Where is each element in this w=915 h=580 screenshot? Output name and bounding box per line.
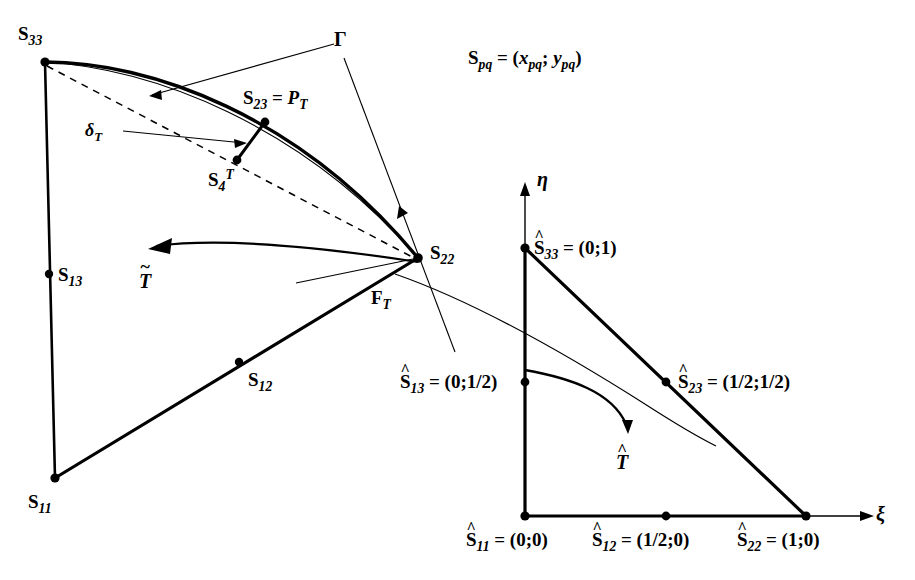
label-s13: S13 xyxy=(58,265,82,288)
label-t-tilde: ~T xyxy=(139,271,151,291)
label-t-tilde-wrap: ~T xyxy=(139,271,151,291)
label-t-hat-wrap: ^T xyxy=(616,452,628,472)
label-s13-sub: 13 xyxy=(69,274,83,289)
sweep-curve-right xyxy=(395,274,716,446)
label-gamma: Γ xyxy=(334,29,347,49)
gamma-leader-left-arrowhead xyxy=(149,90,162,100)
label-s23-sub: 23 xyxy=(254,97,268,112)
label-s33-sub: 33 xyxy=(29,33,43,48)
label-shat33-sub: 33 xyxy=(545,247,559,262)
label-gamma-text: Γ xyxy=(334,28,347,50)
label-shat13-coords: (0;1/2) xyxy=(445,371,498,392)
label-s4t: S4T xyxy=(208,168,234,194)
label-shat33-coords: (0;1) xyxy=(579,237,617,258)
hat-accent-icon: ^ xyxy=(617,441,627,458)
label-shat23-wrap: ^S xyxy=(678,372,689,391)
label-shat12-coords: (1/2;0) xyxy=(637,529,690,550)
legend-y-sub: pq xyxy=(562,57,576,72)
label-shat13-sub: 13 xyxy=(411,381,425,396)
label-shat11: ^S11 = (0;0) xyxy=(466,530,548,553)
delta-t-leader xyxy=(123,131,244,143)
label-shat11-coords: (0;0) xyxy=(510,529,548,550)
label-s11-base: S xyxy=(28,491,39,512)
label-shat11-wrap: ^S xyxy=(466,530,477,549)
label-s22-base: S xyxy=(430,242,441,263)
label-shat23-coords: (1/2;1/2) xyxy=(723,371,791,392)
hat-accent-icon: ^ xyxy=(679,362,688,378)
legend-eq: = ( xyxy=(492,47,519,68)
node-dot-shat13 xyxy=(521,378,530,387)
label-s13-base: S xyxy=(58,264,69,285)
label-axis-xi-text: ξ xyxy=(876,503,885,525)
edge-curve-approx xyxy=(45,62,418,258)
legend-s-sub: pq xyxy=(479,57,493,72)
gamma-leader-right-arrowhead xyxy=(397,206,408,219)
label-delta-t: δT xyxy=(85,121,102,144)
label-s11-sub: 11 xyxy=(39,501,52,516)
label-shat13: ^S13 = (0;1/2) xyxy=(400,372,497,395)
label-ft-base: F xyxy=(371,287,383,308)
label-pt-base: P xyxy=(288,87,300,108)
label-shat13-eq: = xyxy=(424,371,444,392)
hat-accent-icon: ^ xyxy=(738,520,747,536)
label-shat22: ^S22 = (1;0) xyxy=(737,530,820,553)
legend-note: Spq = (xpq; ypq) xyxy=(468,48,582,71)
label-s33-base: S xyxy=(18,23,29,44)
label-s23-equals-pt: S23 = PT xyxy=(243,88,308,111)
label-shat12-wrap: ^S xyxy=(592,530,603,549)
label-shat33-wrap: ^S xyxy=(534,238,545,257)
label-s11: S11 xyxy=(28,492,52,515)
legend-close: ) xyxy=(575,47,581,68)
node-dot-shat11 xyxy=(520,511,529,520)
node-dot-shat12 xyxy=(662,512,671,521)
node-dot-s33 xyxy=(40,57,49,66)
label-s23-base: S xyxy=(243,87,254,108)
label-s33: S33 xyxy=(18,24,42,47)
node-dot-shat23 xyxy=(662,378,671,387)
hat-accent-icon: ^ xyxy=(535,228,544,244)
node-dot-shat22 xyxy=(801,511,810,520)
label-pt-sub: T xyxy=(299,97,307,112)
legend-s: S xyxy=(468,47,479,68)
label-shat11-sub: 11 xyxy=(477,539,490,554)
hat-accent-icon: ^ xyxy=(593,520,602,536)
xi-axis-arrowhead xyxy=(860,511,874,521)
label-shat13-wrap: ^S xyxy=(400,372,411,391)
eta-axis-arrowhead xyxy=(520,182,530,196)
diagram-canvas xyxy=(0,0,915,580)
label-shat33: ^S33 = (0;1) xyxy=(534,238,617,261)
legend-x-sub: pq xyxy=(528,57,542,72)
t-hat-arrow-curve xyxy=(525,370,626,424)
label-s4t-sup: T xyxy=(225,167,233,182)
figure-root: S33 S11 S22 S13 S12 S23 = PT S4T Γ δT FT… xyxy=(0,0,915,580)
label-axis-eta: η xyxy=(537,169,548,189)
tilde-accent-icon: ~ xyxy=(140,258,149,276)
edge-curve-gamma xyxy=(45,62,418,258)
label-axis-eta-text: η xyxy=(537,168,548,190)
label-shat22-eq: = xyxy=(761,529,781,550)
hat-accent-icon: ^ xyxy=(467,520,476,536)
node-dot-s13 xyxy=(45,270,53,278)
label-shat12: ^S12 = (1/2;0) xyxy=(592,530,689,553)
label-ft-sub: T xyxy=(383,297,391,312)
label-s22: S22 xyxy=(430,243,454,266)
t-hat-arrowhead xyxy=(622,420,633,434)
segment-s23-s4t xyxy=(237,122,265,160)
node-dot-s22 xyxy=(413,253,423,263)
label-t-hat: ^T xyxy=(616,452,628,472)
label-shat22-coords: (1;0) xyxy=(782,529,820,550)
label-s12-base: S xyxy=(248,369,259,390)
node-dot-s12 xyxy=(235,358,243,366)
label-shat22-sub: 22 xyxy=(748,539,762,554)
label-axis-xi: ξ xyxy=(876,504,885,524)
label-s4t-base: S xyxy=(208,169,219,190)
label-shat22-wrap: ^S xyxy=(737,530,748,549)
legend-x: x xyxy=(519,47,529,68)
label-shat23: ^S23 = (1/2;1/2) xyxy=(678,372,790,395)
label-shat33-eq: = xyxy=(558,237,578,258)
label-shat23-eq: = xyxy=(702,371,722,392)
gamma-leader-right xyxy=(344,58,455,352)
legend-semi: ; xyxy=(542,47,553,68)
label-s22-sub: 22 xyxy=(441,252,455,267)
t-tilde-arrow-curve xyxy=(156,243,418,262)
